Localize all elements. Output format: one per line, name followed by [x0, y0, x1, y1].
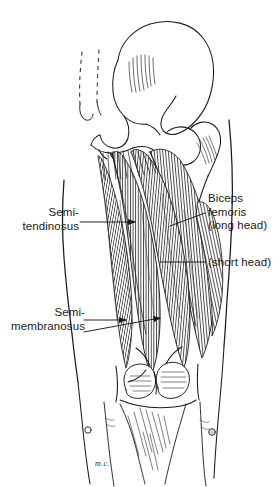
label-semitendinosus-line1: Semi- — [48, 206, 79, 218]
label-biceps-line3: (long head) — [208, 219, 267, 231]
artist-signature: m.c. — [95, 459, 110, 468]
label-biceps-short-head: (short head) — [208, 256, 271, 270]
label-semimembranosus-line1: Semi- — [54, 306, 85, 318]
anatomical-figure: Semi-tendinosus Semi-membranosus Bicepsf… — [0, 0, 280, 487]
label-biceps-line2: femoris — [208, 206, 246, 218]
anatomy-illustration — [0, 0, 280, 487]
ilium — [91, 22, 214, 149]
label-biceps-line1: Biceps — [208, 192, 243, 204]
sacrum — [80, 50, 99, 104]
coccyx — [80, 102, 101, 120]
label-semitendinosus-line2: tendinosus — [22, 220, 79, 232]
label-semimembranosus: Semi-membranosus — [11, 306, 85, 333]
label-semitendinosus: Semi-tendinosus — [22, 206, 79, 233]
label-short-head-line1: (short head) — [208, 256, 271, 268]
label-biceps-femoris: Bicepsfemoris(long head) — [208, 192, 267, 233]
label-semimembranosus-line2: membranosus — [11, 320, 85, 332]
